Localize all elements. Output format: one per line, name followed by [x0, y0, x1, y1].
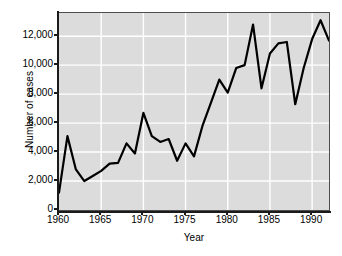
x-axis-spine — [57, 211, 331, 213]
y-axis-spine — [57, 11, 59, 213]
line-series-svg — [59, 13, 329, 210]
x-tick-label: 1975 — [173, 215, 195, 225]
chart-figure: Number of cases Year 02,0004,0006,0008,0… — [0, 0, 342, 256]
x-tick-label: 1970 — [131, 215, 153, 225]
x-tick-label: 1960 — [47, 215, 69, 225]
x-tick-label: 1985 — [258, 215, 280, 225]
x-tick-label: 1965 — [89, 215, 111, 225]
x-tick-label: 1980 — [216, 215, 238, 225]
data-line — [59, 20, 329, 192]
plot-area — [58, 12, 330, 211]
x-tick-label: 1990 — [300, 215, 322, 225]
gridlines — [59, 13, 329, 210]
